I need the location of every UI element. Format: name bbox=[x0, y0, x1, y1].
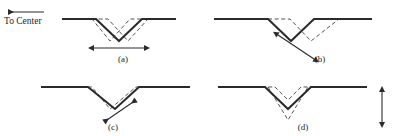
panel-d-dashed-notch-large bbox=[248, 87, 330, 120]
panel-b: (b) bbox=[214, 19, 372, 64]
four-panel-notch-variation-figure: To Center (a) (b) (c) (d) bbox=[0, 0, 397, 136]
panel-d: (d) bbox=[218, 87, 382, 132]
panel-c-label: (c) bbox=[108, 122, 118, 132]
to-center-annotation: To Center bbox=[4, 12, 44, 26]
panel-a-label: (a) bbox=[118, 54, 128, 64]
panel-d-dashed-notch-small bbox=[255, 87, 322, 100]
panel-a: (a) bbox=[62, 19, 176, 64]
panel-c-dashed-notch bbox=[68, 87, 158, 109]
panel-c-solid-notch bbox=[41, 87, 190, 109]
panel-b-label: (b) bbox=[315, 54, 326, 64]
panel-d-solid-notch bbox=[218, 87, 367, 109]
panel-c: (c) bbox=[41, 87, 190, 132]
to-center-label: To Center bbox=[4, 16, 42, 26]
panel-a-solid-notch bbox=[62, 19, 176, 41]
panel-d-label: (d) bbox=[298, 122, 309, 132]
